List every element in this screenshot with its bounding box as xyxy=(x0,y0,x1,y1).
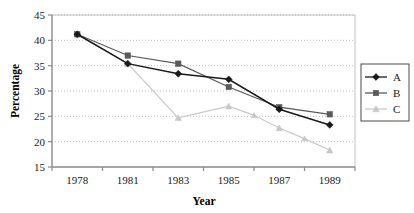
y-axis-tick-label: 40 xyxy=(34,34,46,46)
legend-label-b: B xyxy=(393,87,400,99)
x-axis-tick-label: 1978 xyxy=(66,174,89,186)
chart-canvas: 15202530354045 197819811983198519871989 … xyxy=(0,0,414,213)
y-axis-tick-label: 35 xyxy=(34,60,46,72)
data-point-marker-square xyxy=(373,90,378,95)
y-axis-title: Percentage xyxy=(9,64,22,118)
y-axis-tick-label: 15 xyxy=(34,161,46,173)
line-chart-figure: 15202530354045 197819811983198519871989 … xyxy=(0,0,414,213)
x-axis-tick-label: 1983 xyxy=(167,174,190,186)
x-axis-tick-label: 1981 xyxy=(117,174,139,186)
y-axis-tick-label: 25 xyxy=(34,110,46,122)
y-axis-tick-label: 20 xyxy=(34,136,46,148)
y-axis-tick-label: 45 xyxy=(34,9,46,21)
chart-background xyxy=(0,0,414,213)
x-axis-tick-label: 1989 xyxy=(319,174,342,186)
x-axis-title: Year xyxy=(193,195,216,207)
data-point-marker-square xyxy=(226,84,231,89)
y-axis-tick-label: 30 xyxy=(34,85,46,97)
x-axis-tick-label: 1987 xyxy=(268,174,291,186)
chart-legend: ABC xyxy=(361,64,409,121)
data-point-marker-square xyxy=(327,112,332,117)
legend-label-c: C xyxy=(393,103,400,115)
x-axis-tick-label: 1985 xyxy=(218,174,241,186)
data-point-marker-square xyxy=(125,53,130,58)
data-point-marker-square xyxy=(176,61,181,66)
legend-label-a: A xyxy=(393,71,401,83)
